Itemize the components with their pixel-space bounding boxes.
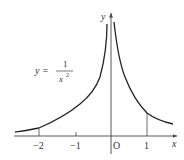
tick-label-neg1: −1 <box>70 140 81 151</box>
function-lhs: y = <box>34 65 49 76</box>
y-axis-label: y <box>100 11 106 22</box>
tick-label-neg2: −2 <box>33 140 44 151</box>
function-numerator: 1 <box>63 59 68 69</box>
tick-label-1: 1 <box>144 140 149 151</box>
function-label: y = 1 x 2 <box>34 59 73 84</box>
curve-right-branch <box>114 22 173 124</box>
function-graph: y x O −2 −1 1 y = 1 x 2 <box>0 0 184 160</box>
origin-label: O <box>113 140 120 151</box>
function-denominator: x <box>58 74 63 84</box>
x-axis-label: x <box>171 138 177 149</box>
function-exponent: 2 <box>66 72 69 78</box>
